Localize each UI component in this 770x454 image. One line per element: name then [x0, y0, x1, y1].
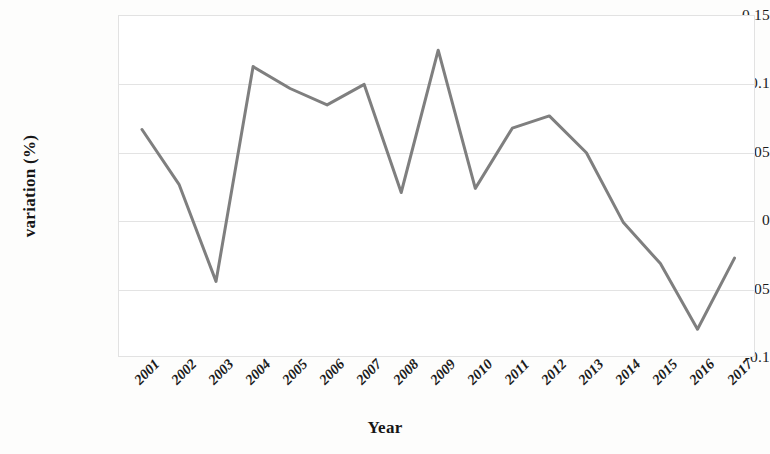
y-axis-title: variation (%): [20, 135, 40, 238]
y-axis-title-wrap: variation (%): [10, 0, 50, 372]
series-line-variation: [119, 16, 756, 358]
plot-area: [118, 15, 755, 357]
x-axis-title: Year: [0, 418, 770, 438]
line-chart: variation (%) 0.150.10.050-0.05-0.1 2001…: [0, 0, 770, 454]
